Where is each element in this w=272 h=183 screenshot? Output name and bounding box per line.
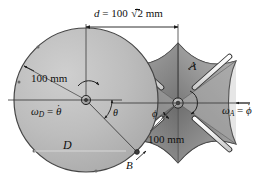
disk-rim-mark-1: [37, 46, 40, 49]
wheel-radius-label: 100 mm: [148, 134, 184, 145]
disk-radius-label: 100 mm: [31, 73, 67, 84]
center-distance-label: d = 100 √2 mm: [94, 8, 163, 19]
disk-rim-mark-2: [18, 81, 21, 84]
driving-pin-b: [135, 150, 140, 155]
disk-label-d: D: [63, 139, 72, 151]
geneva-mechanism-figure: d = 100 √2 mm 100 mm ωD = ·θ θ D A ϕ ωA …: [0, 0, 272, 183]
wheel-label-a: A: [189, 60, 196, 72]
disk-rim-mark-4: [95, 170, 98, 173]
theta-angle-label: θ: [113, 108, 118, 118]
omega-d-label: ωD = ·θ: [31, 106, 61, 118]
figure-drawing: [0, 0, 272, 183]
pin-label-b: B: [126, 160, 133, 171]
phi-angle-label: ϕ: [152, 109, 157, 119]
omega-a-label: ωA = ·ϕ: [222, 105, 252, 117]
